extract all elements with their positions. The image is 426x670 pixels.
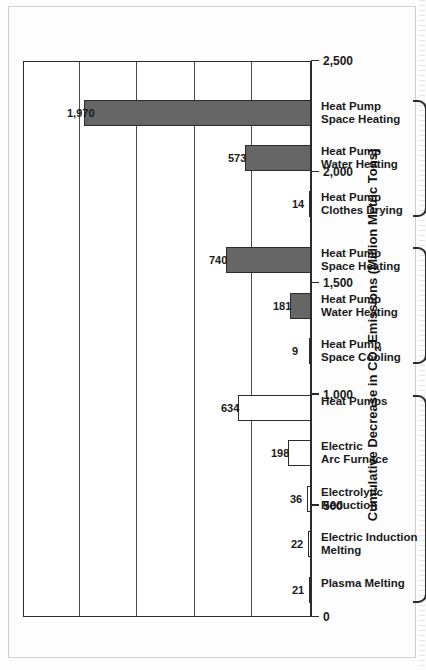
bar-value-label: 9 — [292, 346, 298, 358]
scanned-page: 2122361986349181740145731,970 05001,0001… — [0, 0, 426, 670]
bar-value-label: 36 — [290, 493, 302, 505]
category-label: Heat PumpSpace Cooling — [315, 339, 340, 365]
category-label: ElectricArc Furnace — [315, 441, 340, 467]
bar[interactable] — [245, 146, 311, 172]
category-label-line: Heat Pump — [321, 248, 426, 261]
bar-value-label: 634 — [221, 402, 239, 414]
group-brace — [413, 248, 426, 365]
bar-chart: 2122361986349181740145731,970 05001,0001… — [9, 9, 417, 661]
category-label-line: Heat Pump — [321, 146, 426, 159]
value-axis-line — [311, 61, 312, 617]
bar-value-label: 1,970 — [67, 107, 95, 119]
bar-value-label: 573 — [228, 153, 246, 165]
category-label-line: Space Heating — [321, 260, 426, 273]
bar[interactable] — [288, 441, 311, 467]
bar-value-label: 14 — [292, 198, 304, 210]
category-label: Heat PumpSpace Heating — [315, 100, 340, 126]
bar-value-label: 740 — [209, 255, 227, 267]
bars-layer: 2122361986349181740145731,970 — [23, 61, 311, 617]
category-label-line: Heat Pump — [321, 339, 426, 352]
axis-tick — [311, 282, 319, 283]
category-label-line: Heat Pump — [321, 191, 426, 204]
category-label-line: Clothes Drying — [321, 204, 426, 217]
category-label-line: Heat Pump — [321, 100, 426, 113]
category-label-line: Water Heating — [321, 158, 426, 171]
bar-value-label: 181 — [273, 300, 291, 312]
category-label-line: Heat Pumps — [321, 395, 426, 408]
category-label-line: Plasma Melting — [321, 577, 426, 590]
group-brace — [413, 395, 426, 603]
category-label-line: Heat Pump — [321, 293, 426, 306]
category-label: ElectrolyticReduction — [315, 486, 340, 512]
bar-value-label: 21 — [292, 584, 304, 596]
category-label-line: Melting — [321, 544, 426, 557]
category-label-line: Space Cooling — [321, 351, 426, 364]
bar[interactable] — [238, 395, 311, 421]
axis-tick-label: 2,500 — [323, 54, 353, 68]
category-label: Heat PumpWater Heating — [315, 146, 340, 172]
group-brace — [413, 100, 426, 217]
axis-tick — [311, 60, 319, 61]
category-label-line: Arc Furnace — [321, 453, 426, 466]
category-label: Plasma Melting — [315, 577, 328, 603]
category-label: Electric InductionMelting — [315, 532, 340, 558]
category-label-line: Space Heating — [321, 113, 426, 126]
category-label: Heat PumpClothes Drying — [315, 191, 340, 217]
category-label: Heat Pumps — [315, 395, 328, 421]
bar-value-label: 22 — [291, 539, 303, 551]
category-label: Heat PumpSpace Heating — [315, 248, 340, 274]
category-label: Heat PumpWater Heating — [315, 293, 340, 319]
bar[interactable] — [84, 100, 311, 126]
bar[interactable] — [226, 248, 311, 274]
category-label-line: Electric — [321, 441, 426, 454]
category-label-line: Reduction — [321, 499, 426, 512]
axis-tick — [311, 616, 319, 617]
category-label-line: Electric Induction — [321, 532, 426, 545]
bar-value-label: 198 — [271, 448, 289, 460]
bar[interactable] — [290, 293, 311, 319]
rotated-chart-stage: 2122361986349181740145731,970 05001,0001… — [9, 9, 417, 661]
category-label-line: Electrolytic — [321, 486, 426, 499]
axis-tick-label: 1,500 — [323, 276, 353, 290]
category-label-line: Water Heating — [321, 306, 426, 319]
axis-tick-label: 0 — [323, 610, 330, 624]
